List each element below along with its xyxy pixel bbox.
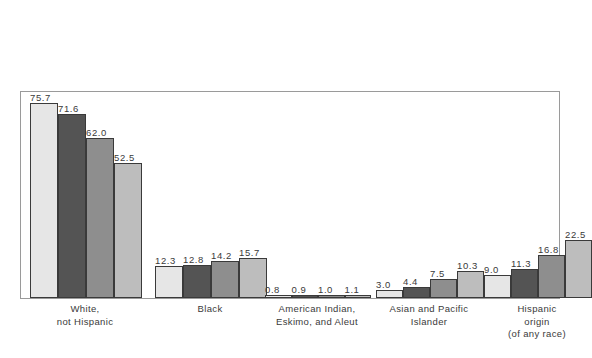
bar-2050[interactable]: 22.5 [565,240,592,298]
x-axis-label: Asian and Pacific Islander [375,303,483,328]
x-axis-label: American Indian, Eskimo, and Aleut [264,303,370,328]
bar-2000[interactable]: 71.6 [58,114,86,298]
bar-1990[interactable]: 0.8 [265,295,292,298]
bar-value-label: 7.5 [430,268,445,279]
bar-value-label: 0.9 [292,284,307,295]
x-axis-label-row: White, not HispanicBlackAmerican Indian,… [20,303,560,355]
bar-slot: 4.4 [403,92,430,298]
bar-slot: 62.0 [86,92,114,298]
chart-header [17,26,367,34]
bar-slot: 12.3 [155,92,183,298]
bar-slot: 0.8 [265,92,292,298]
bar-1990[interactable]: 3.0 [376,290,403,298]
bar-slot: 0.9 [292,92,319,298]
bar-slot: 16.8 [538,92,565,298]
bar-2000[interactable]: 12.8 [183,265,211,298]
bars-row: 3.04.47.510.3 [376,92,484,298]
bar-group: 3.04.47.510.3 [376,92,484,298]
bar-2025[interactable]: 1.0 [318,295,345,298]
bar-slot: 71.6 [58,92,86,298]
bar-value-label: 52.5 [114,152,135,163]
bars-row: 12.312.814.215.7 [155,92,267,298]
bar-value-label: 12.3 [155,255,176,266]
bar-value-label: 14.2 [211,250,232,261]
bar-2050[interactable]: 1.1 [345,295,372,298]
bar-group: 0.80.91.01.1 [265,92,371,298]
bar-value-label: 0.8 [265,284,280,295]
bar-2000[interactable]: 4.4 [403,287,430,298]
bar-value-label: 75.7 [30,92,51,103]
bar-value-label: 10.3 [457,260,478,271]
bar-2025[interactable]: 62.0 [86,138,114,298]
x-axis-label: White, not Hispanic [29,303,141,328]
x-axis-label: Hispanic origin (of any race) [483,303,591,341]
bar-slot: 12.8 [183,92,211,298]
bar-slot: 9.0 [484,92,511,298]
bar-slot: 75.7 [30,92,58,298]
bar-2050[interactable]: 10.3 [457,271,484,298]
bars-row: 9.011.316.822.5 [484,92,592,298]
bar-slot: 15.7 [239,92,267,298]
x-axis-label: Black [154,303,266,316]
bar-1990[interactable]: 9.0 [484,275,511,298]
bar-2000[interactable]: 11.3 [511,269,538,298]
bar-slot: 3.0 [376,92,403,298]
bar-2050[interactable]: 15.7 [239,258,267,298]
bar-slot: 1.0 [318,92,345,298]
bar-1990[interactable]: 75.7 [30,103,58,298]
bar-2025[interactable]: 14.2 [211,261,239,298]
bar-value-label: 3.0 [376,279,391,290]
bar-value-label: 1.1 [345,284,360,295]
bar-value-label: 11.3 [511,258,531,269]
bar-2050[interactable]: 52.5 [114,163,142,298]
bar-value-label: 12.8 [183,254,204,265]
bar-value-label: 1.0 [318,284,333,295]
bar-slot: 14.2 [211,92,239,298]
bar-group: 12.312.814.215.7 [155,92,267,298]
bar-value-label: 15.7 [239,247,260,258]
bar-value-label: 22.5 [565,229,586,240]
plot-area: 75.771.662.052.512.312.814.215.70.80.91.… [21,92,559,298]
bar-slot: 1.1 [345,92,372,298]
bar-value-label: 71.6 [58,103,79,114]
bar-2025[interactable]: 16.8 [538,255,565,298]
bar-slot: 10.3 [457,92,484,298]
bar-2025[interactable]: 7.5 [430,279,457,298]
bar-value-label: 9.0 [484,264,499,275]
bars-row: 75.771.662.052.5 [30,92,142,298]
bar-1990[interactable]: 12.3 [155,266,183,298]
bar-value-label: 4.4 [403,276,418,287]
bar-slot: 7.5 [430,92,457,298]
bar-value-label: 16.8 [538,244,559,255]
bar-2000[interactable]: 0.9 [292,295,319,298]
bar-slot: 52.5 [114,92,142,298]
bars-row: 0.80.91.01.1 [265,92,371,298]
bar-value-label: 62.0 [86,127,107,138]
bar-slot: 22.5 [565,92,592,298]
bar-group: 9.011.316.822.5 [484,92,592,298]
bar-group: 75.771.662.052.5 [30,92,142,298]
bar-slot: 11.3 [511,92,538,298]
plot-frame: 75.771.662.052.512.312.814.215.70.80.91.… [20,91,560,299]
